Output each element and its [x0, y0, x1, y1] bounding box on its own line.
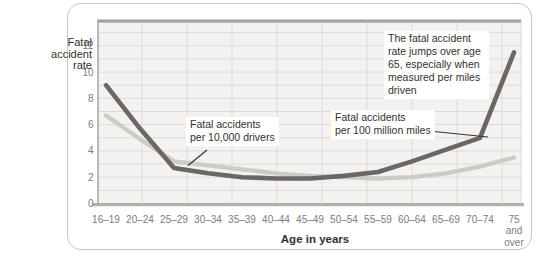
y-tick-label: 2	[88, 172, 94, 183]
x-tick-label: 16–19	[92, 214, 120, 225]
x-tick-label: 35–39	[228, 214, 256, 225]
annotation-note: The fatal accident rate jumps over age 6…	[384, 31, 489, 99]
x-tick-label: 20–24	[126, 214, 154, 225]
x-axis-line	[92, 203, 524, 206]
label-per-100-million-miles: Fatal accidents per 100 million miles	[331, 110, 435, 139]
figure-canvas: 02468101216–1920–2425–2930–3435–3940–444…	[0, 0, 548, 266]
x-tick-label: 45–49	[296, 214, 324, 225]
y-tick-label: 0	[88, 198, 94, 209]
x-tick-label: 60–64	[398, 214, 426, 225]
x-tick-label: 50–54	[330, 214, 358, 225]
y-tick-label: 6	[88, 119, 94, 130]
x-axis-title: Age in years	[277, 233, 353, 245]
x-tick-label: 30–34	[194, 214, 222, 225]
plot-top-border	[98, 20, 522, 23]
x-tick-label: 70–74	[466, 214, 494, 225]
x-tick-label: 55–59	[364, 214, 392, 225]
label-per-10000-drivers: Fatal accidents per 10,000 drivers	[186, 117, 279, 146]
x-tick-label: 65–69	[432, 214, 460, 225]
y-axis-title: Fatal accident rate	[40, 37, 92, 72]
x-tick-label: 25–29	[160, 214, 188, 225]
x-tick-label: 40–44	[262, 214, 290, 225]
y-tick-label: 4	[88, 145, 94, 156]
x-tick-label: 75andover	[504, 214, 524, 248]
y-tick-label: 8	[88, 93, 94, 104]
